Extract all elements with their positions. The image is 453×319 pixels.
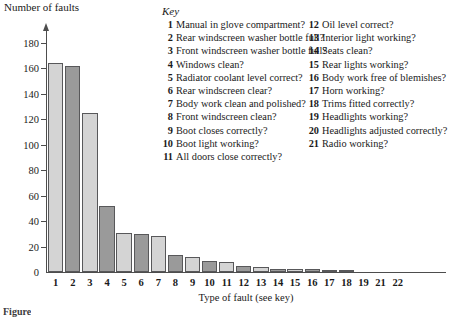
y-axis-tick	[41, 145, 47, 146]
bar	[151, 236, 166, 272]
key-columns: 1Manual in glove compartment?2Rear winds…	[160, 18, 450, 163]
key-item-label: Windows clean?	[176, 58, 244, 71]
bar	[287, 269, 302, 272]
key-title: Key	[162, 5, 450, 17]
y-axis-tick-label: 40	[29, 216, 40, 227]
key-item-number: 5	[160, 71, 173, 84]
figure-caption: Figure	[3, 306, 31, 319]
chart-page: Number of faults 02040608010012014016018…	[0, 0, 453, 319]
y-axis-tick-label: 120	[23, 114, 39, 125]
x-axis-tick-label: 6	[139, 277, 144, 288]
key-legend: Key 1Manual in glove compartment?2Rear w…	[160, 5, 450, 163]
key-item-number: 3	[160, 44, 173, 57]
key-item: 1Manual in glove compartment?	[160, 18, 306, 31]
x-axis-tick-label: 13	[256, 277, 267, 288]
x-axis-tick-label: 11	[222, 277, 232, 288]
x-axis-tick-label: 12	[239, 277, 250, 288]
key-item-label: Interior light working?	[322, 31, 416, 44]
key-item-number: 6	[160, 84, 173, 97]
key-item-number: 9	[160, 124, 173, 137]
key-item-number: 2	[160, 31, 173, 44]
x-axis-tick-label: 8	[173, 277, 178, 288]
y-axis-tick-label: 80	[29, 165, 40, 176]
key-item-label: Horn working?	[322, 84, 385, 97]
key-item-label: Rear windscreen clear?	[176, 84, 272, 97]
bar	[116, 233, 131, 272]
key-item: 15Rear lights working?	[306, 58, 450, 71]
bar	[339, 270, 354, 272]
x-axis-tick-label: 21	[375, 277, 386, 288]
key-item: 12Oil level correct?	[306, 18, 450, 31]
key-item-number: 7	[160, 97, 173, 110]
key-item-number: 13	[306, 31, 319, 44]
bar	[219, 262, 234, 272]
key-item: 17Horn working?	[306, 84, 450, 97]
key-item-number: 11	[160, 150, 173, 163]
key-item-label: Headlights adjusted correctly?	[322, 124, 447, 137]
y-axis-tick	[41, 196, 47, 197]
key-item-label: Oil level correct?	[322, 18, 393, 31]
y-axis-tick	[41, 43, 47, 44]
y-axis-tick-label: 160	[23, 63, 39, 74]
key-item-number: 8	[160, 110, 173, 123]
x-axis-tick-label: 3	[87, 277, 92, 288]
key-item: 3Front windscreen washer bottle full?	[160, 44, 306, 57]
key-item: 20Headlights adjusted correctly?	[306, 124, 450, 137]
key-item-number: 14	[306, 44, 319, 57]
key-item: 10Boot light working?	[160, 137, 306, 150]
key-item: 4Windows clean?	[160, 58, 306, 71]
key-item-number: 16	[306, 71, 319, 84]
y-axis-title: Number of faults	[4, 1, 79, 14]
key-item-label: Seats clean?	[322, 44, 373, 57]
key-item: 11All doors close correctly?	[160, 150, 306, 163]
key-column-right: 12Oil level correct?13Interior light wor…	[306, 18, 450, 163]
x-axis-tick-label: 9	[190, 277, 195, 288]
key-item-label: Radiator coolant level correct?	[176, 71, 303, 84]
x-axis-line	[46, 272, 446, 273]
key-item-number: 17	[306, 84, 319, 97]
key-item: 2Rear windscreen washer bottle full?	[160, 31, 306, 44]
y-axis-line	[46, 30, 47, 272]
key-item-number: 19	[306, 110, 319, 123]
bar	[236, 266, 251, 272]
bar	[82, 113, 97, 272]
key-item-number: 4	[160, 58, 173, 71]
key-item-label: Rear lights working?	[322, 58, 408, 71]
x-axis-tick-label: 18	[341, 277, 352, 288]
x-axis-title: Type of fault (see key)	[46, 292, 446, 303]
x-axis-tick-label: 7	[156, 277, 161, 288]
x-axis-tick-label: 15	[290, 277, 301, 288]
y-axis-tick	[41, 221, 47, 222]
y-axis-tick	[41, 170, 47, 171]
key-item: 8Front windscreen clean?	[160, 110, 306, 123]
key-item: 14Seats clean?	[306, 44, 450, 57]
key-item-number: 20	[306, 124, 319, 137]
bar	[270, 269, 285, 272]
x-axis-tick-label: 2	[70, 277, 75, 288]
y-axis-tick-label: 20	[29, 241, 40, 252]
key-item-label: Radio working?	[322, 137, 388, 150]
key-item-label: Headlights working?	[322, 110, 408, 123]
key-item-number: 15	[306, 58, 319, 71]
x-axis-tick-label: 16	[307, 277, 318, 288]
y-axis-tick	[41, 94, 47, 95]
bar	[185, 257, 200, 272]
key-column-left: 1Manual in glove compartment?2Rear winds…	[160, 18, 306, 163]
key-item-number: 12	[306, 18, 319, 31]
y-axis-tick	[41, 119, 47, 120]
bar	[202, 261, 217, 272]
key-item-label: Body work free of blemishes?	[322, 71, 446, 84]
key-item-label: All doors close correctly?	[176, 150, 282, 163]
key-item: 5Radiator coolant level correct?	[160, 71, 306, 84]
key-item: 13Interior light working?	[306, 31, 450, 44]
bar	[253, 267, 268, 272]
x-axis-tick-label: 1	[53, 277, 58, 288]
y-axis-tick-label: 140	[23, 88, 39, 99]
key-item: 6Rear windscreen clear?	[160, 84, 306, 97]
y-axis-tick	[41, 68, 47, 69]
key-item-label: Manual in glove compartment?	[176, 18, 305, 31]
key-item-label: Front windscreen washer bottle full?	[176, 44, 327, 57]
y-axis-tick-label: 0	[34, 267, 39, 278]
key-item: 16Body work free of blemishes?	[306, 71, 450, 84]
key-item-number: 18	[306, 97, 319, 110]
